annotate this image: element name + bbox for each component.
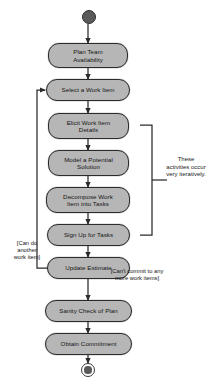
final-node-core	[84, 366, 91, 373]
activity-label: Elicit Work Item Details	[67, 119, 111, 134]
annotation-note: These activities occur very iteratively.	[155, 156, 217, 179]
activity-node-plan-team-availability[interactable]: Plan Team Availability	[48, 43, 128, 68]
activity-label: Obtain Commitment	[61, 340, 117, 347]
activity-label: Sign Up for Tasks	[64, 231, 113, 238]
activity-node-sanity-check-of-plan[interactable]: Sanity Check of Plan	[45, 300, 132, 322]
activity-diagram-canvas: Plan Team Availability Select a Work Ite…	[0, 0, 218, 381]
activity-label: Select a Work Item	[61, 86, 114, 93]
activity-node-model-a-potential-solution[interactable]: Model a Potential Solution	[48, 150, 129, 176]
initial-node	[82, 10, 96, 24]
activity-label: Model a Potential Solution	[64, 156, 113, 171]
activity-label: Plan Team Availability	[73, 48, 103, 63]
activity-node-decompose-work-item-into-tasks[interactable]: Decompose Work Item into Tasks	[46, 187, 130, 213]
activity-label: Decompose Work Item into Tasks	[63, 193, 113, 208]
activity-node-sign-up-for-tasks[interactable]: Sign Up for Tasks	[47, 224, 130, 246]
activity-node-select-a-work-item[interactable]: Select a Work Item	[46, 79, 130, 101]
guard-label-exit-loop: [Can't commit to any more work items]	[97, 268, 177, 282]
activity-node-obtain-commitment[interactable]: Obtain Commitment	[45, 333, 132, 355]
activity-label: Sanity Check of Plan	[59, 307, 117, 314]
final-node	[81, 363, 95, 377]
annotation-bracket	[140, 125, 152, 235]
activity-node-elicit-work-item-details[interactable]: Elicit Work Item Details	[48, 113, 129, 139]
guard-label-loop-back: [Can do another work item]	[4, 240, 50, 262]
